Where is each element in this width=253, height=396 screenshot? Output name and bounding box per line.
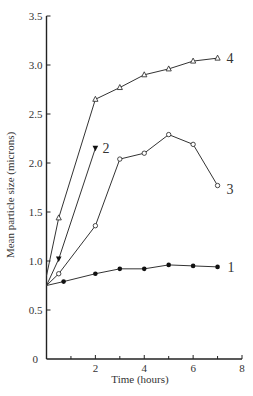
series-group: 1234 — [47, 51, 235, 285]
filled-circle-marker — [142, 267, 147, 272]
series-label-4: 4 — [227, 51, 234, 66]
filled-circle-marker — [191, 264, 196, 269]
series-3: 3 — [47, 132, 234, 285]
open-circle-marker — [93, 224, 97, 228]
open-circle-marker — [57, 272, 61, 276]
line-chart: 00.51.01.52.02.53.03.52468 1234 Time (ho… — [0, 0, 253, 396]
open-circle-marker — [118, 157, 122, 161]
filled-triangle-marker — [56, 257, 62, 263]
series-line — [47, 58, 218, 276]
open-triangle-marker — [56, 215, 61, 220]
series-label-1: 1 — [228, 260, 235, 275]
filled-triangle-marker — [93, 146, 99, 152]
y-axis-title: Mean particle size (microns) — [4, 132, 17, 258]
open-circle-marker — [166, 132, 170, 136]
x-tick-label: 2 — [93, 362, 99, 374]
y-tick-label: 1.5 — [29, 206, 43, 218]
filled-circle-marker — [166, 263, 171, 268]
y-tick-label: 0 — [33, 353, 39, 365]
open-triangle-marker — [215, 55, 220, 60]
series-line — [47, 135, 218, 286]
y-tick-label: 2.5 — [29, 108, 43, 120]
series-1: 1 — [47, 260, 235, 286]
y-tick-label: 2.0 — [29, 157, 43, 169]
open-circle-marker — [191, 142, 195, 146]
open-circle-marker — [215, 183, 219, 187]
series-line — [47, 265, 218, 286]
filled-circle-marker — [61, 279, 66, 284]
y-tick-label: 3.5 — [29, 10, 43, 22]
axes: 00.51.01.52.02.53.03.52468 — [29, 10, 246, 374]
series-line — [47, 148, 96, 285]
y-tick-label: 0.5 — [29, 304, 43, 316]
x-tick-label: 6 — [190, 362, 196, 374]
x-axis-title: Time (hours) — [111, 373, 169, 386]
y-tick-label: 1.0 — [29, 255, 43, 267]
series-label-2: 2 — [102, 141, 109, 156]
x-tick-label: 8 — [239, 362, 245, 374]
filled-circle-marker — [93, 271, 98, 276]
y-tick-label: 3.0 — [29, 59, 43, 71]
filled-circle-marker — [215, 265, 220, 270]
series-label-3: 3 — [227, 182, 234, 197]
filled-circle-marker — [118, 267, 123, 272]
open-circle-marker — [142, 151, 146, 155]
series-4: 4 — [47, 51, 234, 276]
